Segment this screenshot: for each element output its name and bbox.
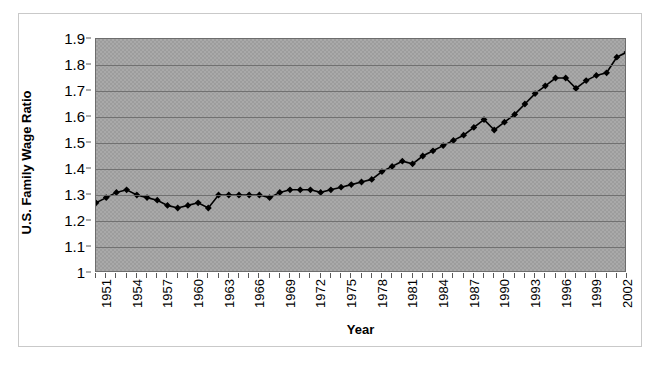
x-tick-mark [626, 273, 627, 278]
data-point-marker [195, 199, 202, 206]
y-axis-tick-labels: 11.11.21.31.41.51.61.71.81.9 [50, 38, 91, 272]
x-tick-label: 1987 [468, 279, 481, 308]
x-tick-mark [187, 273, 188, 278]
x-tick-mark [207, 273, 208, 278]
data-point-marker [96, 199, 99, 206]
x-tick-mark [473, 273, 474, 278]
y-tick-label: 1.5 [64, 135, 85, 150]
x-tick-label: 1981 [406, 279, 419, 308]
x-tick-mark [115, 273, 116, 278]
gridline [96, 221, 625, 222]
gridline [96, 91, 625, 92]
x-tick-mark [350, 273, 351, 278]
x-tick-label: 1969 [284, 279, 297, 308]
x-tick-label: 1951 [100, 279, 113, 308]
y-tick-label: 1.8 [64, 57, 85, 72]
x-tick-label: 1963 [223, 279, 236, 308]
x-tick-mark [463, 273, 464, 278]
x-tick-mark [146, 273, 147, 278]
x-tick-mark [361, 273, 362, 278]
x-tick-mark [166, 273, 167, 278]
y-axis-title: U.S. Family Wage Ratio [19, 63, 34, 263]
gridline [96, 169, 625, 170]
x-tick-label: 1954 [131, 279, 144, 308]
gridline [96, 195, 625, 196]
y-tick-label: 1.9 [64, 31, 85, 46]
x-tick-mark [422, 273, 423, 278]
data-point-marker [287, 186, 294, 193]
x-tick-mark [136, 273, 137, 278]
x-tick-label: 1990 [498, 279, 511, 308]
x-tick-mark [544, 273, 545, 278]
y-tick-mark [86, 194, 91, 195]
x-tick-mark [197, 273, 198, 278]
x-tick-mark [452, 273, 453, 278]
data-series-line [96, 39, 626, 272]
gridline [96, 117, 625, 118]
x-tick-mark [606, 273, 607, 278]
x-tick-label: 1993 [529, 279, 542, 308]
x-tick-mark [442, 273, 443, 278]
x-tick-mark [401, 273, 402, 278]
x-tick-mark [483, 273, 484, 278]
y-tick-mark [86, 168, 91, 169]
data-point-marker [399, 158, 406, 165]
data-point-marker [154, 197, 161, 204]
x-tick-mark [575, 273, 576, 278]
x-tick-mark [269, 273, 270, 278]
x-tick-mark [309, 273, 310, 278]
x-tick-mark [320, 273, 321, 278]
x-tick-mark [432, 273, 433, 278]
x-tick-label: 1978 [376, 279, 389, 308]
y-tick-mark [86, 142, 91, 143]
x-tick-mark [565, 273, 566, 278]
x-tick-mark [105, 273, 106, 278]
data-point-marker [174, 205, 181, 212]
x-tick-mark [340, 273, 341, 278]
x-tick-mark [493, 273, 494, 278]
data-point-marker [123, 186, 130, 193]
x-tick-mark [156, 273, 157, 278]
data-point-marker [185, 202, 192, 209]
y-tick-label: 1.1 [64, 239, 85, 254]
x-tick-label: 1966 [253, 279, 266, 308]
x-tick-label: 1975 [345, 279, 358, 308]
y-tick-label: 1.7 [64, 83, 85, 98]
x-tick-mark [524, 273, 525, 278]
y-tick-mark [86, 90, 91, 91]
y-tick-label: 1 [77, 265, 85, 280]
x-tick-label: 1996 [560, 279, 573, 308]
x-tick-mark [279, 273, 280, 278]
x-tick-mark [248, 273, 249, 278]
x-tick-mark [371, 273, 372, 278]
x-tick-mark [238, 273, 239, 278]
x-tick-mark [585, 273, 586, 278]
x-tick-mark [595, 273, 596, 278]
data-point-marker [307, 186, 314, 193]
x-tick-mark [126, 273, 127, 278]
y-tick-mark [86, 38, 91, 39]
plot-area [95, 38, 626, 272]
chart-figure: U.S. Family Wage Ratio 11.11.21.31.41.51… [0, 0, 659, 372]
y-tick-mark [86, 220, 91, 221]
x-tick-label: 1999 [590, 279, 603, 308]
y-tick-mark [86, 116, 91, 117]
data-point-marker [338, 184, 345, 191]
y-tick-label: 1.2 [64, 213, 85, 228]
x-tick-label: 1972 [314, 279, 327, 308]
x-tick-mark [95, 273, 96, 278]
data-point-marker [358, 179, 365, 186]
gridline [96, 247, 625, 248]
gridline [96, 65, 625, 66]
x-tick-label: 1960 [192, 279, 205, 308]
x-tick-mark [534, 273, 535, 278]
x-tick-label: 1957 [161, 279, 174, 308]
x-tick-mark [177, 273, 178, 278]
series-markers [96, 49, 626, 212]
y-tick-mark [86, 246, 91, 247]
y-tick-label: 1.4 [64, 161, 85, 176]
y-tick-mark [86, 272, 91, 273]
x-tick-mark [616, 273, 617, 278]
x-tick-mark [228, 273, 229, 278]
x-tick-mark [258, 273, 259, 278]
